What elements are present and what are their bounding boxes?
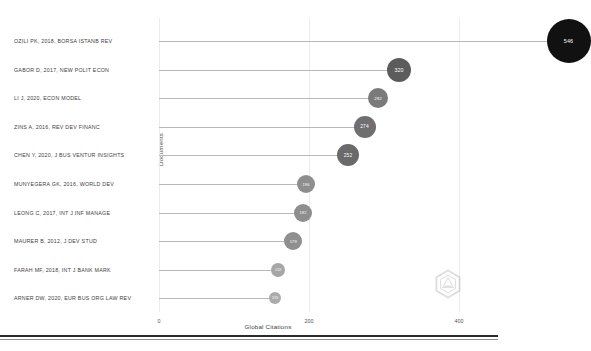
- hexagon-logo-watermark-icon: [434, 269, 462, 299]
- data-point-bubble[interactable]: 274: [354, 116, 376, 138]
- data-point-bubble[interactable]: 252: [337, 144, 359, 166]
- plot-area: Documents OZILI PK, 2018, BORSA ISTANB R…: [159, 18, 489, 312]
- data-point-bubble[interactable]: 292: [368, 88, 388, 108]
- x-axis: 0200400: [159, 312, 489, 313]
- data-point-bubble[interactable]: 179: [284, 232, 302, 250]
- stem-line: [159, 155, 348, 156]
- stem-line: [159, 98, 378, 99]
- category-label: LI J, 2020, ECON MODEL: [14, 95, 154, 101]
- stem-line: [159, 184, 306, 185]
- data-point-bubble[interactable]: 546: [547, 19, 591, 63]
- x-axis-tick-label: 400: [455, 318, 464, 324]
- stem-line: [159, 241, 293, 242]
- x-axis-title: Global Citations: [245, 323, 292, 330]
- page-edge-rule-light: [0, 339, 498, 340]
- stem-line: [159, 270, 278, 271]
- stem-line: [159, 70, 399, 71]
- page-edge-rule-dark: [0, 335, 498, 337]
- category-label: LEONG C, 2017, INT J INF MANAGE: [14, 210, 154, 216]
- data-point-bubble[interactable]: 155: [269, 292, 281, 304]
- stem-line: [159, 41, 569, 42]
- stem-line: [159, 213, 303, 214]
- stem-line: [159, 298, 275, 299]
- data-point-bubble[interactable]: 196: [297, 175, 315, 193]
- gridline: [459, 18, 460, 312]
- data-point-bubble[interactable]: 159: [271, 263, 285, 277]
- data-point-bubble[interactable]: 192: [294, 204, 312, 222]
- category-label: ARNER DW, 2020, EUR BUS ORG LAW REV: [14, 295, 154, 301]
- category-label: MUNYEGERA GK, 2016, WORLD DEV: [14, 181, 154, 187]
- category-label: ZINS A, 2016, REV DEV FINANC: [14, 124, 154, 130]
- category-label: MAURER B, 2012, J DEV STUD: [14, 238, 154, 244]
- gridline: [159, 18, 160, 312]
- x-axis-tick-label: 200: [305, 318, 314, 324]
- category-label: FARAH MF, 2018, INT J BANK MARK: [14, 267, 154, 273]
- data-point-bubble[interactable]: 320: [387, 58, 411, 82]
- gridline: [309, 18, 310, 312]
- category-label: CHEN Y, 2020, J BUS VENTUR INSIGHTS: [14, 152, 154, 158]
- stem-line: [159, 127, 365, 128]
- x-axis-tick-label: 0: [158, 318, 161, 324]
- category-label: GABOR D, 2017, NEW POLIT ECON: [14, 67, 154, 73]
- category-label: OZILI PK, 2018, BORSA ISTANB REV: [14, 38, 154, 44]
